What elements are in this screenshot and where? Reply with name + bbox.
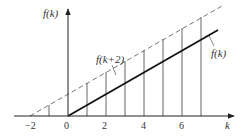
tick-label: 4 (141, 120, 146, 131)
stem-lines (49, 17, 201, 116)
tick-label: −2 (25, 120, 36, 131)
tick-label: 0 (64, 120, 69, 131)
tick-label: 6 (179, 120, 184, 131)
x-axis-label: k (225, 119, 231, 131)
shifted-leader (112, 65, 116, 75)
base-signal-label: f(k) (211, 47, 227, 60)
shifted-signal-label: f(k+2) (96, 53, 125, 66)
shifted-signal-line (30, 6, 222, 116)
y-axis-label: f(k) (43, 7, 59, 20)
base-signal-line (68, 30, 218, 116)
signal-shift-diagram: f(k) f(k+2) f(k) k −2 0 2 4 6 (0, 0, 244, 139)
tick-label: 2 (102, 120, 107, 131)
base-leader (209, 36, 214, 46)
